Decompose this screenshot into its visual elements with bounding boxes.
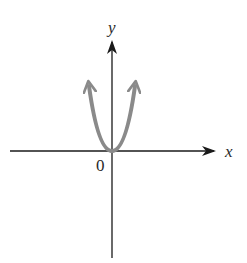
x-axis-label: x (224, 142, 233, 161)
parabola-right-branch (112, 86, 135, 151)
y-axis-label: y (106, 18, 116, 37)
parabola-left-branch (89, 86, 112, 151)
coordinate-plane: y x 0 (0, 0, 247, 263)
origin-label: 0 (96, 156, 105, 175)
